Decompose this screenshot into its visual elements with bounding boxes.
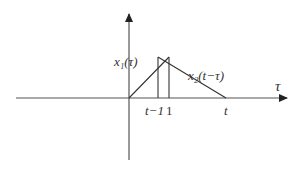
convolution-diagram: x₁(τ) x₂(t−τ) τ t−1 1 t bbox=[0, 0, 303, 169]
x2-label: x₂(t−τ) bbox=[187, 68, 224, 83]
tick-t: t bbox=[224, 103, 228, 118]
x1-label: x₁(τ) bbox=[113, 54, 138, 69]
tick-1: 1 bbox=[166, 103, 173, 118]
tau-axis-label: τ bbox=[275, 78, 281, 94]
tick-t-minus-1: t−1 bbox=[145, 103, 164, 118]
